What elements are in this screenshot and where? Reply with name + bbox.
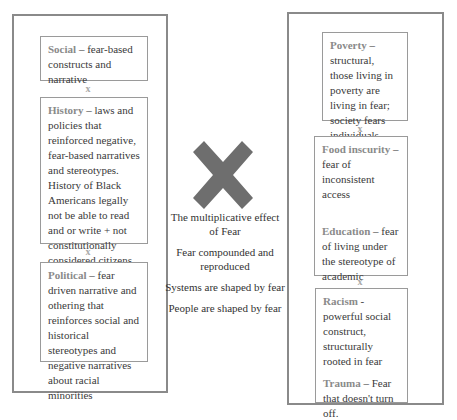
social-label: Social [48,43,76,55]
political-label: Political [48,269,87,281]
separator-x-icon: x [354,276,366,288]
food-education-box: Food inscurity – fear of inconsistent ac… [314,136,408,276]
center-line: Systems are shaped by fear [165,280,285,294]
education-label: Education [322,225,370,237]
history-label: History [48,104,83,116]
center-line: People are shaped by fear [165,301,285,315]
political-box: Political – fear driven narrative and ot… [40,262,148,362]
center-line: The multiplicative effect of Fear [165,210,285,238]
racism-label: Racism [323,295,358,307]
racism-trauma-box: Racism - powerful social construct, stru… [315,288,408,403]
social-box: Social – fear-based constructs and narra… [40,36,148,81]
political-text: – fear driven narrative and othering tha… [48,269,139,401]
poverty-box: Poverty – structural, those living in po… [322,32,408,121]
center-line: Fear compounded and reproduced [165,245,285,273]
poverty-label: Poverty [330,39,367,51]
history-box: History – laws and policies that reinfor… [40,97,148,244]
separator-x-icon: x [354,123,366,135]
food-insecurity-label: Food inscurity [322,143,390,155]
multiply-x-icon [190,140,256,210]
separator-x-icon: x [82,246,94,258]
center-text: The multiplicative effect of Fear Fear c… [165,210,285,322]
trauma-label: Trauma [323,377,361,389]
separator-x-icon: x [82,83,94,95]
